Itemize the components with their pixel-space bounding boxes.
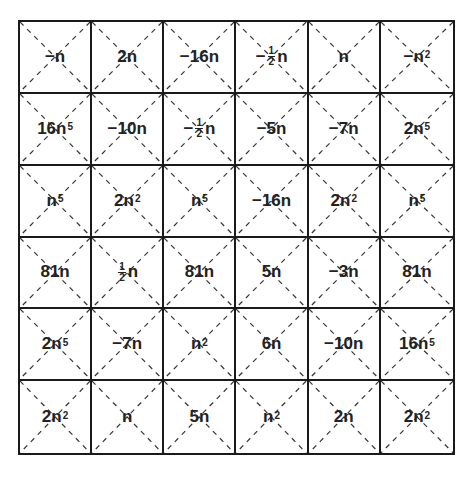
expression-exponent: 2 — [425, 410, 431, 421]
expression-coefficient: 5 — [189, 407, 198, 427]
expression-coefficient: 2 — [331, 191, 340, 211]
cell-expression: 5n — [262, 262, 282, 282]
grid-cell-r5-c1: 2n5 — [20, 309, 92, 381]
cell-expression: −n — [45, 47, 65, 67]
cell-expression: 2n2 — [404, 407, 430, 427]
expression-variable: n — [199, 407, 209, 427]
grid-cell-r1-c5: n — [309, 22, 381, 94]
expression-exponent: 2 — [135, 193, 141, 204]
expression-variable: n — [408, 191, 418, 211]
expression-variable: n — [209, 47, 219, 67]
cell-expression: 2n2 — [331, 191, 357, 211]
cell-expression: −7n — [112, 334, 142, 354]
expression-variable: n — [263, 407, 273, 427]
expression-sign: − — [257, 119, 267, 139]
expression-coefficient: 16 — [399, 334, 418, 354]
grid-cell-r1-c1: −n — [20, 22, 92, 94]
expression-exponent: 5 — [58, 193, 64, 204]
cell-expression: −16n — [252, 191, 291, 211]
expression-variable: n — [271, 334, 281, 354]
fraction-denominator: 2 — [196, 129, 202, 139]
grid-cell-r6-c6: 2n2 — [381, 381, 453, 453]
expression-variable: n — [55, 47, 65, 67]
grid-cell-r1-c4: −12n — [236, 22, 308, 94]
expression-variable: n — [204, 262, 214, 282]
grid-cell-r3-c4: −16n — [236, 166, 308, 238]
expression-variable: n — [122, 407, 132, 427]
expression-variable: n — [277, 47, 287, 67]
cell-expression: −10n — [324, 334, 363, 354]
grid-cell-r4-c1: 81n — [20, 238, 92, 310]
cell-expression: 12n — [116, 262, 138, 283]
expression-coefficient: 81 — [402, 262, 421, 282]
expression-exponent: 2 — [202, 337, 208, 348]
grid-cell-r3-c6: n5 — [381, 166, 453, 238]
grid-cell-r4-c4: 5n — [236, 238, 308, 310]
cell-expression: 81n — [40, 262, 69, 282]
grid-cell-r1-c6: −n2 — [381, 22, 453, 94]
cell-expression: −10n — [108, 119, 147, 139]
grid-cell-r6-c1: 2n2 — [20, 381, 92, 453]
cell-expression: 6n — [262, 334, 282, 354]
expression-coefficient: 2 — [334, 407, 343, 427]
expression-sign: − — [403, 47, 413, 67]
expression-coefficient: 5 — [262, 262, 271, 282]
expression-variable: n — [348, 119, 358, 139]
expression-variable: n — [276, 119, 286, 139]
expression-coefficient: 2 — [42, 334, 51, 354]
cell-expression: 2n — [334, 407, 354, 427]
expression-coefficient: 2 — [42, 407, 51, 427]
expression-variable: n — [47, 191, 57, 211]
expression-variable: n — [191, 334, 201, 354]
cell-expression: 5n — [189, 407, 209, 427]
grid-cell-r2-c3: −12n — [164, 94, 236, 166]
expression-coefficient: 81 — [185, 262, 204, 282]
grid-cell-r4-c3: 81n — [164, 238, 236, 310]
expression-variable: n — [205, 119, 215, 139]
expression-coefficient: 5 — [267, 119, 276, 139]
expression-coefficient: 2 — [404, 119, 413, 139]
expression-variable: n — [132, 334, 142, 354]
expression-variable: n — [51, 334, 61, 354]
expression-sign: − — [108, 119, 118, 139]
expression-grid: −n2n−16n−12nn−n216n5−10n−12n−5n−7n2n5n52… — [18, 20, 455, 455]
cell-expression: 2n5 — [404, 119, 430, 139]
cell-expression: n2 — [263, 407, 280, 427]
grid-cell-r1-c2: 2n — [92, 22, 164, 94]
expression-sign: − — [45, 47, 55, 67]
expression-sign: − — [324, 334, 334, 354]
cell-expression: −12n — [256, 46, 288, 67]
expression-variable: n — [413, 47, 423, 67]
expression-exponent: 5 — [420, 193, 426, 204]
cell-expression: 81n — [185, 262, 214, 282]
cell-expression: n — [339, 47, 349, 67]
cell-expression: 2n — [117, 47, 137, 67]
expression-sign: − — [329, 119, 339, 139]
cell-expression: 16n5 — [37, 119, 73, 139]
expression-variable: n — [413, 119, 423, 139]
expression-variable: n — [191, 191, 201, 211]
grid-cell-r5-c5: −10n — [309, 309, 381, 381]
cell-expression: n5 — [408, 191, 425, 211]
expression-variable: n — [418, 334, 428, 354]
expression-variable: n — [136, 119, 146, 139]
expression-exponent: 5 — [67, 121, 73, 132]
expression-variable: n — [339, 47, 349, 67]
expression-exponent: 5 — [425, 121, 431, 132]
expression-exponent: 2 — [425, 49, 431, 60]
cell-expression: n5 — [47, 191, 64, 211]
expression-coefficient: 6 — [262, 334, 271, 354]
expression-coefficient: 16 — [262, 191, 281, 211]
expression-variable: n — [348, 262, 358, 282]
expression-sign: − — [112, 334, 122, 354]
expression-coefficient: 81 — [40, 262, 59, 282]
cell-expression: n5 — [191, 191, 208, 211]
cell-expression: 2n2 — [114, 191, 140, 211]
grid-cell-r2-c6: 2n5 — [381, 94, 453, 166]
grid-cell-r3-c1: n5 — [20, 166, 92, 238]
grid-cell-r2-c2: −10n — [92, 94, 164, 166]
expression-variable: n — [281, 191, 291, 211]
grid-cell-r6-c2: n — [92, 381, 164, 453]
fraction: 12 — [268, 46, 276, 67]
expression-sign: − — [183, 119, 193, 139]
